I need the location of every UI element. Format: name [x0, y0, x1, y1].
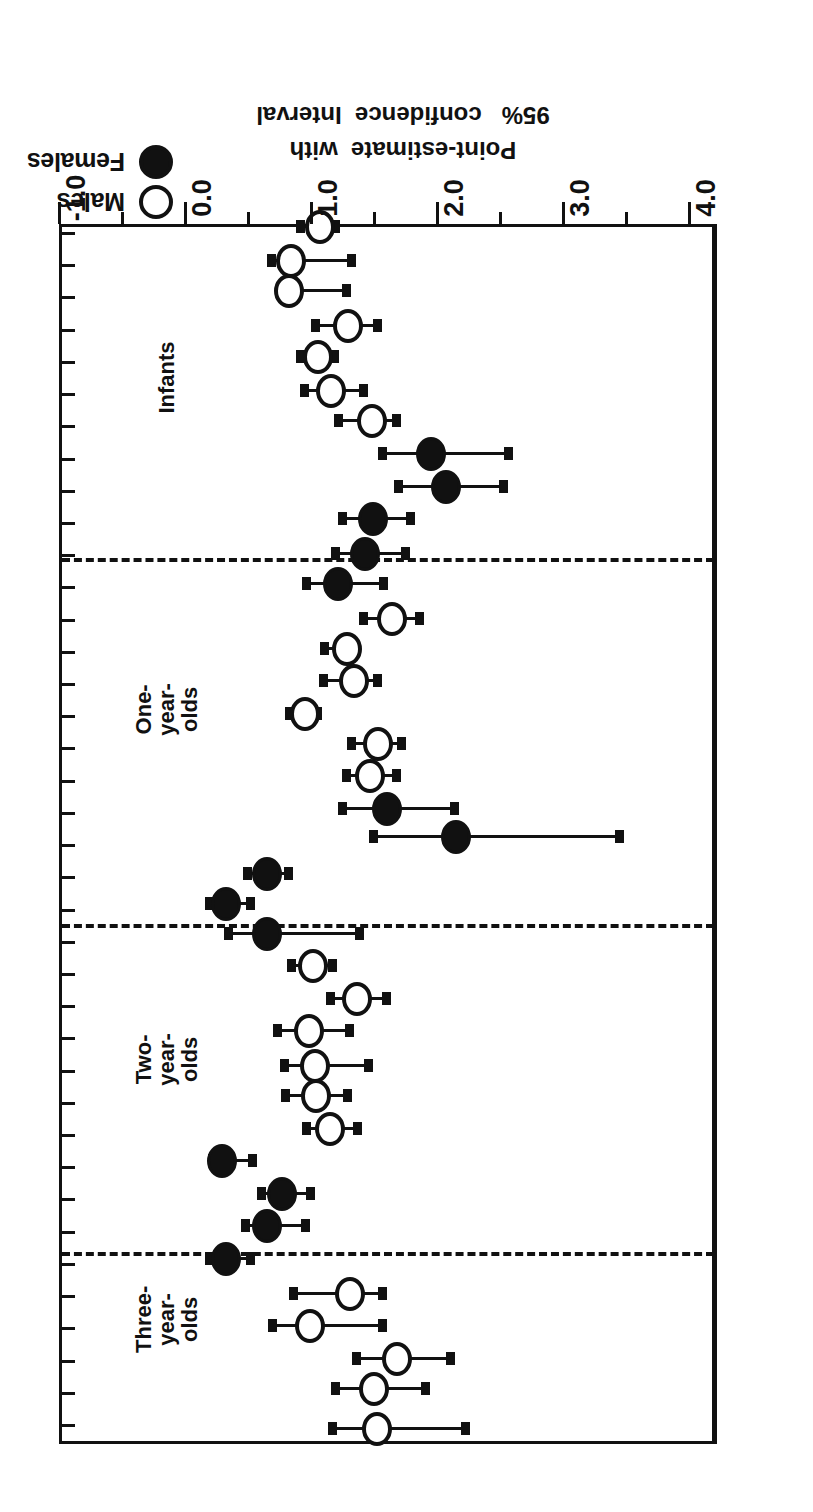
point-estimate-male [333, 309, 363, 343]
confidence-interval-line [374, 835, 620, 838]
row-tick [62, 1199, 75, 1202]
ci-cap-upper [328, 959, 337, 972]
group-label: Infants [155, 332, 178, 422]
row-tick [62, 941, 75, 944]
axis-title-line-2: 95% confidence Interval [143, 97, 663, 132]
row-tick [62, 876, 75, 879]
row-tick [62, 425, 75, 428]
point-estimate-male [315, 1112, 345, 1146]
x-axis-tick-label: 1.0 [313, 179, 344, 217]
ci-cap-upper [378, 1319, 387, 1332]
group-separator-2 [62, 558, 714, 562]
ci-cap-upper [446, 1352, 455, 1365]
ci-cap-upper [615, 830, 624, 843]
x-axis-tick [247, 212, 250, 224]
group-label: Three- year- olds [132, 1274, 201, 1364]
ci-cap-lower [267, 254, 276, 267]
point-estimate-male [342, 982, 372, 1016]
ci-cap-lower [302, 1122, 311, 1135]
ci-cap-lower [320, 642, 329, 655]
ci-cap-upper [504, 447, 513, 460]
point-estimate-male [295, 1309, 325, 1343]
x-axis-tick-label: -1.0 [61, 175, 92, 222]
ci-cap-upper [246, 897, 255, 910]
point-estimate-male [355, 759, 385, 793]
ci-cap-lower [326, 992, 335, 1005]
ci-cap-lower [338, 512, 347, 525]
ci-cap-upper [401, 547, 410, 560]
point-estimate-male [382, 1342, 412, 1376]
row-tick [62, 747, 75, 750]
point-estimate-female [358, 502, 388, 536]
ci-cap-upper [373, 319, 382, 332]
row-tick [62, 490, 75, 493]
ci-cap-lower [369, 830, 378, 843]
group-separator-1 [62, 924, 714, 928]
point-estimate-female [441, 820, 471, 854]
ci-cap-lower [347, 737, 356, 750]
point-estimate-male [359, 1372, 389, 1406]
ci-cap-upper [382, 992, 391, 1005]
point-estimate-male [274, 274, 304, 308]
row-tick [62, 1263, 75, 1266]
confidence-interval-line [383, 452, 509, 455]
group-label: Two-year-olds [132, 1014, 201, 1104]
ci-cap-upper [359, 384, 368, 397]
row-tick [62, 586, 75, 589]
point-estimate-male [362, 1412, 392, 1446]
group-label: One-year-olds [132, 664, 201, 754]
ci-cap-lower [243, 867, 252, 880]
row-tick [62, 1166, 75, 1169]
point-estimate-male [363, 727, 393, 761]
point-estimate-female [211, 1242, 241, 1276]
row-tick [62, 554, 75, 557]
ci-cap-lower [274, 1024, 283, 1037]
ci-cap-lower [287, 959, 296, 972]
point-estimate-female [252, 857, 282, 891]
row-tick [62, 1360, 75, 1363]
ci-cap-upper [378, 1287, 387, 1300]
ci-cap-upper [392, 769, 401, 782]
row-tick [62, 458, 75, 461]
x-axis-tick-label: 3.0 [565, 179, 596, 217]
point-estimate-female [350, 537, 380, 571]
ci-cap-upper [345, 1024, 354, 1037]
ci-cap-lower [331, 1382, 340, 1395]
axis-title: Point-estimate with 95% confidence Inter… [143, 97, 663, 167]
row-tick [62, 1327, 75, 1330]
confidence-interval-line [229, 932, 360, 935]
row-tick [62, 1295, 75, 1298]
point-estimate-female [372, 792, 402, 826]
ci-cap-upper [246, 1252, 255, 1265]
ci-cap-upper [397, 737, 406, 750]
ci-cap-lower [224, 927, 233, 940]
row-tick [62, 361, 75, 364]
point-estimate-female [323, 567, 353, 601]
ci-cap-lower [352, 1352, 361, 1365]
point-estimate-male [298, 949, 328, 983]
row-tick [62, 264, 75, 267]
ci-cap-upper [499, 480, 508, 493]
point-estimate-female [267, 1177, 297, 1211]
point-estimate-female [252, 917, 282, 951]
point-estimate-male [301, 1079, 331, 1113]
ci-cap-lower [334, 414, 343, 427]
row-tick [62, 522, 75, 525]
point-estimate-male [357, 404, 387, 438]
group-separator-0 [62, 1252, 714, 1256]
row-tick [62, 1231, 75, 1234]
row-tick [62, 909, 75, 912]
point-estimate-male [339, 664, 369, 698]
ci-cap-lower [331, 547, 340, 560]
ci-cap-upper [306, 1187, 315, 1200]
ci-cap-upper [406, 512, 415, 525]
x-axis-tick-label: 0.0 [187, 179, 218, 217]
ci-cap-lower [289, 1287, 298, 1300]
x-axis-tick [121, 212, 124, 224]
confidence-interval-line [333, 1427, 467, 1430]
ci-cap-upper [301, 1219, 310, 1232]
ci-cap-upper [342, 284, 351, 297]
row-tick [62, 232, 75, 235]
row-tick [62, 1102, 75, 1105]
point-estimate-male [316, 374, 346, 408]
